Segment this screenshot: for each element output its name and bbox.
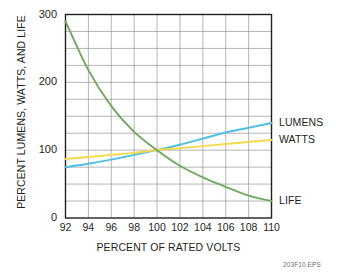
y-tick-label: 200 — [17, 76, 57, 87]
grid-lines — [66, 15, 272, 219]
y-tick-label: 100 — [17, 144, 57, 155]
series-label-life: LIFE — [279, 195, 302, 206]
series-label-watts: WATTS — [279, 134, 315, 145]
y-tick-label: 300 — [17, 9, 57, 20]
figure-id-label: 203F10.EPS — [283, 261, 321, 269]
series-label-lumens: LUMENS — [279, 117, 323, 128]
series-line-watts — [66, 140, 272, 159]
series-line-lumens — [66, 123, 272, 167]
chart-figure: PERCENT LUMENS, WATTS, AND LIFE PERCENT … — [0, 0, 344, 276]
x-tick-label: 110 — [257, 222, 287, 233]
